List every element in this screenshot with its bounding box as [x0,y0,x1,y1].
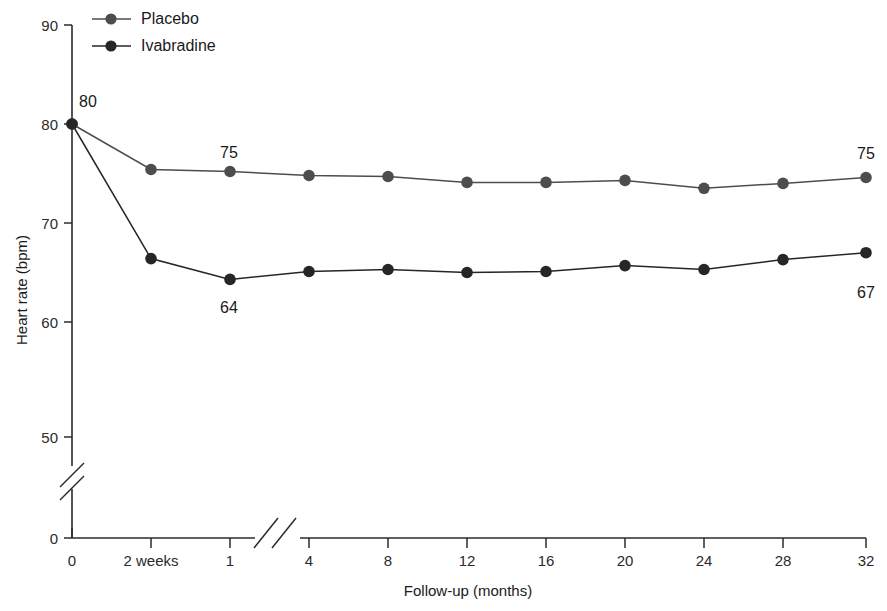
x-tick-label-28: 28 [775,552,792,569]
data-point-placebo-16[interactable] [540,177,552,189]
legend-marker-placebo [105,13,116,24]
annotation-ivabradine-67: 67 [857,284,875,301]
x-tick-label-4: 4 [305,552,313,569]
x-axis: 0 2 weeks 1 4 8 12 16 20 24 28 32 Follow… [68,518,875,599]
line-chart: 90 80 70 60 50 0 Heart rate (bpm) [0,0,887,611]
x-tick-label-0: 0 [68,552,76,569]
data-point-ivabradine-2-weeks[interactable] [145,253,157,265]
legend-marker-ivabradine [105,40,116,51]
data-point-ivabradine-1[interactable] [224,274,236,286]
y-tick-label-50: 50 [41,429,58,446]
data-point-ivabradine-24[interactable] [698,264,710,276]
legend-label-placebo: Placebo [141,10,199,27]
x-tick-label-24: 24 [696,552,713,569]
point-annotations: 80 75 75 64 67 [79,93,875,316]
legend-item-ivabradine[interactable]: Ivabradine [92,37,216,54]
annotation-start-80: 80 [79,93,97,110]
y-axis-break-slash-1 [60,463,84,487]
y-tick-label-60: 60 [41,314,58,331]
x-axis-title: Follow-up (months) [404,582,532,599]
data-point-placebo-2-weeks[interactable] [145,164,157,176]
data-point-ivabradine-4[interactable] [303,266,315,278]
x-tick-label-12: 12 [459,552,476,569]
y-tick-label-0: 0 [50,530,58,547]
y-axis: 90 80 70 60 50 0 Heart rate (bpm) [13,17,84,547]
legend-item-placebo[interactable]: Placebo [92,10,199,27]
data-point-placebo-24[interactable] [698,183,710,195]
x-tick-label-16: 16 [538,552,555,569]
x-tick-label-20: 20 [617,552,634,569]
data-point-placebo-8[interactable] [382,171,394,183]
annotation-ivabradine-64: 64 [220,299,238,316]
x-tick-label-2weeks: 2 weeks [123,552,178,569]
chart-container: 90 80 70 60 50 0 Heart rate (bpm) [0,0,887,611]
y-axis-title: Heart rate (bpm) [13,235,30,345]
annotation-placebo-75-end: 75 [857,145,875,162]
y-tick-label-70: 70 [41,215,58,232]
y-tick-label-90: 90 [41,17,58,34]
data-point-placebo-28[interactable] [777,178,789,190]
data-point-ivabradine-20[interactable] [619,260,631,272]
x-axis-break-slash-1 [254,518,278,548]
data-point-placebo-12[interactable] [461,177,473,189]
data-point-placebo-4[interactable] [303,170,315,182]
annotation-placebo-75-early: 75 [220,144,238,161]
x-tick-label-32: 32 [858,552,875,569]
data-point-ivabradine-12[interactable] [461,267,473,279]
data-point-ivabradine-28[interactable] [777,254,789,266]
y-tick-label-80: 80 [41,116,58,133]
data-point-placebo-20[interactable] [619,175,631,187]
data-point-ivabradine-8[interactable] [382,264,394,276]
x-axis-break-slash-2 [272,518,296,548]
data-point-ivabradine-16[interactable] [540,266,552,278]
data-point-ivabradine-0[interactable] [66,118,78,130]
x-tick-label-8: 8 [384,552,392,569]
series-layer [66,118,872,285]
data-point-ivabradine-32[interactable] [860,247,872,259]
legend: Placebo Ivabradine [92,10,216,54]
data-point-placebo-32[interactable] [860,172,872,184]
x-tick-label-1: 1 [226,552,234,569]
legend-label-ivabradine: Ivabradine [141,37,216,54]
series-line-ivabradine [72,124,866,279]
data-point-placebo-1[interactable] [224,166,236,178]
